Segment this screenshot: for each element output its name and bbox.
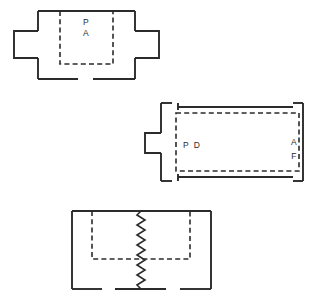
figure-2-label-d: D bbox=[194, 140, 201, 150]
figure-1-right-projection bbox=[135, 31, 159, 58]
figure-2-label-f: F bbox=[291, 151, 297, 161]
drawing-surface: P A P D A bbox=[0, 0, 318, 301]
figure-2-label-a: A bbox=[291, 137, 297, 147]
technical-drawing-canvas: P A P D A bbox=[0, 0, 318, 301]
figure-3 bbox=[72, 211, 211, 289]
figure-2-label-p: P bbox=[183, 140, 189, 150]
figure-2-left-projection bbox=[145, 133, 161, 153]
figure-1-label-a: A bbox=[83, 28, 89, 38]
figure-1-label-p: P bbox=[83, 17, 89, 27]
figure-3-zigzag-break-line bbox=[137, 211, 145, 289]
figure-1: P A bbox=[14, 11, 159, 79]
figure-2: P D A F bbox=[145, 103, 303, 181]
figure-1-left-projection bbox=[14, 31, 38, 58]
